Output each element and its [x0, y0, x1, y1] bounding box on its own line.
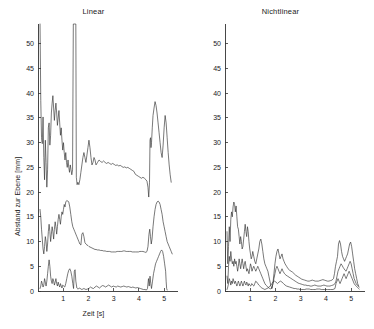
data-series-middle — [40, 201, 172, 254]
svg-text:50: 50 — [213, 40, 221, 47]
svg-text:1: 1 — [248, 295, 252, 302]
svg-text:2: 2 — [273, 295, 277, 302]
svg-text:25: 25 — [26, 164, 34, 171]
svg-text:15: 15 — [26, 213, 34, 220]
x-axis-label-linear: Zeit [s] — [0, 310, 187, 317]
svg-text:5: 5 — [30, 263, 34, 270]
svg-text:10: 10 — [213, 238, 221, 245]
svg-text:45: 45 — [26, 65, 34, 72]
svg-text:50: 50 — [26, 40, 34, 47]
svg-text:30: 30 — [213, 139, 221, 146]
data-series-lower — [227, 271, 359, 289]
svg-text:0: 0 — [30, 288, 34, 295]
svg-text:2: 2 — [86, 295, 90, 302]
svg-text:10: 10 — [26, 238, 34, 245]
plot-svg-linear: 0510152025303540455012345 — [0, 0, 187, 329]
svg-text:25: 25 — [213, 164, 221, 171]
data-series-upper — [227, 202, 359, 289]
plot-panel-linear: Linear 0510152025303540455012345 Abstand… — [0, 0, 187, 329]
plot-svg-nichtlinear: 0510152025303540455012345 — [187, 0, 374, 329]
svg-text:5: 5 — [162, 295, 166, 302]
svg-text:35: 35 — [213, 114, 221, 121]
svg-text:40: 40 — [213, 90, 221, 97]
y-axis-label-linear: Abstand zur Ebene [mm] — [14, 157, 21, 236]
data-series-middle — [227, 251, 359, 289]
svg-text:5: 5 — [349, 295, 353, 302]
svg-text:5: 5 — [217, 263, 221, 270]
svg-text:30: 30 — [26, 139, 34, 146]
svg-text:4: 4 — [324, 295, 328, 302]
svg-text:20: 20 — [26, 189, 34, 196]
svg-text:1: 1 — [61, 295, 65, 302]
plot-panel-nichtlinear: Nichtlinear 0510152025303540455012345 Ab… — [187, 0, 374, 329]
figure-container: Linear 0510152025303540455012345 Abstand… — [0, 0, 374, 329]
svg-text:3: 3 — [112, 295, 116, 302]
svg-text:0: 0 — [217, 288, 221, 295]
svg-text:4: 4 — [137, 295, 141, 302]
svg-text:40: 40 — [26, 90, 34, 97]
data-series-lower — [40, 250, 167, 290]
svg-text:15: 15 — [213, 213, 221, 220]
svg-text:20: 20 — [213, 189, 221, 196]
data-series-upper — [40, 24, 171, 197]
svg-text:35: 35 — [26, 114, 34, 121]
svg-text:3: 3 — [299, 295, 303, 302]
svg-text:45: 45 — [213, 65, 221, 72]
